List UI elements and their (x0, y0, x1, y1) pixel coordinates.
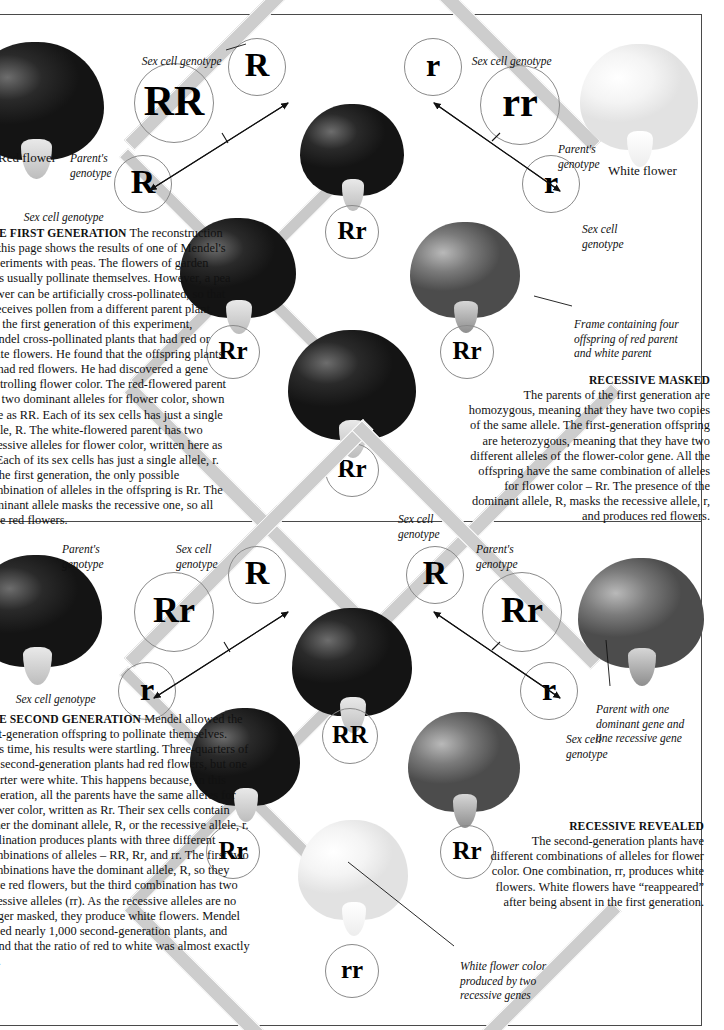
gen1-offspring-flower-top (300, 104, 404, 196)
label-text: Parent with one dominant gene and one re… (596, 703, 684, 744)
label-text: White flower (608, 163, 677, 178)
label-text: Sex cell genotype (582, 223, 624, 249)
gen1-left-text-block: THE FIRST GENERATION The reconstruction … (0, 226, 232, 529)
gen2-offspring-flower-top (292, 608, 412, 716)
gen1-frame-leader (534, 296, 576, 310)
label-text: Parent's genotype (558, 143, 600, 169)
gen2-right-gamete-top: R (423, 556, 448, 590)
gen1-white-sexcell-top-label: Sex cell genotype (466, 40, 552, 69)
gen1-right-text-block: RECESSIVE MASKED The parents of the firs… (466, 374, 710, 524)
gen1-red-gamete-bottom-circle[interactable]: R (114, 155, 172, 213)
label-text: Sex cell genotype (176, 543, 218, 569)
gen1-frame-label: Frame containing four offspring of red p… (574, 303, 679, 361)
gen1-offspring-flower-right (410, 222, 520, 318)
label-text: Sex cell genotype (398, 513, 440, 539)
gen1-left-body: The reconstruction on this page shows th… (0, 226, 231, 527)
gen2-right-heading: RECESSIVE REVEALED (490, 820, 704, 834)
gen2-left-sexcell-top-label: Sex cell genotype (176, 528, 218, 571)
gen2-white-note-leader (348, 862, 458, 952)
label-text: Sex cell genotype (24, 211, 104, 223)
gen2-left-body: Mendel allowed the first-generation offs… (0, 712, 250, 968)
gen2-left-gamete-top: R (245, 556, 270, 590)
gen2-right-cross-arrow (420, 594, 550, 714)
gen1-red-sexcell-top-label: Sex cell genotype (136, 40, 222, 69)
gen1-offspring-flower-bottom (288, 330, 416, 440)
gen1-white-parent-label: Parent's genotype (558, 128, 600, 171)
label-text: Sex cell genotype (142, 55, 222, 67)
gen2-white-note: White flower color produced by two reces… (460, 945, 546, 1003)
gen1-red-sexcell-bottom-label: Sex cell genotype (18, 196, 104, 225)
gen1-red-parent-label: Parent's genotype (70, 137, 112, 180)
gen2-left-parent-label: Parent's genotype (62, 528, 104, 571)
label-text: Parent's genotype (476, 543, 518, 569)
gen2-right-parent-flower (578, 558, 704, 668)
gen2-left-text-block: THE SECOND GENERATION Mendel allowed the… (0, 712, 250, 969)
red-flower-label: Red flower (0, 150, 56, 166)
label-text: Sex cell genotype (16, 693, 96, 705)
white-flower-label: White flower (608, 163, 677, 179)
label-text: Parent's genotype (70, 152, 112, 178)
label-text: Frame containing four offspring of red p… (574, 318, 679, 359)
gen1-white-sexcell-bottom-label: Sex cell genotype (582, 208, 624, 251)
gen2-parent-note-leader (606, 640, 618, 690)
gen1-left-heading: THE FIRST GENERATION (0, 227, 127, 240)
gen2-parent-note: Parent with one dominant gene and one re… (596, 688, 684, 746)
gen2-offspring-circle-bottom[interactable]: rr (325, 944, 379, 998)
gen1-offspring-genotype-right: Rr (452, 338, 481, 363)
gen2-right-sexcell-top-label: Sex cell genotype (398, 498, 440, 541)
gen1-red-gamete-bottom: R (131, 165, 156, 199)
gen2-right-body: The second-generation plants have differ… (491, 834, 704, 909)
gen2-left-cross-arrow (182, 594, 302, 714)
gen2-left-gamete-bottom: r (140, 673, 154, 705)
gen1-red-cross-arrow (180, 85, 300, 205)
gen1-offspring-circle-right[interactable]: Rr (440, 325, 494, 379)
label-text: Sex cell genotype (472, 55, 552, 67)
gen2-left-heading: THE SECOND GENERATION (0, 713, 141, 726)
gen2-right-parent-label: Parent's genotype (476, 528, 518, 571)
gen1-right-body: The parents of the first generation are … (469, 388, 710, 523)
gen2-offspring-genotype-top: RR (332, 722, 368, 747)
label-text: Parent's genotype (62, 543, 104, 569)
gen2-offspring-flower-right (408, 712, 520, 812)
label-text: Red flower (0, 150, 56, 165)
gen2-offspring-genotype-bottom: rr (341, 957, 363, 982)
gen2-offspring-circle-top[interactable]: RR (322, 708, 378, 764)
gen1-right-heading: RECESSIVE MASKED (466, 374, 710, 388)
gen2-offspring-genotype-right: Rr (452, 838, 481, 863)
gen1-white-gamete-top: r (426, 49, 440, 81)
gen2-left-sexcell-bottom-label: Sex cell genotype (10, 678, 96, 707)
gen1-red-sexcell-top-leader (226, 44, 252, 64)
label-text: White flower color produced by two reces… (460, 960, 546, 1001)
gen2-right-text-block: RECESSIVE REVEALED The second-generation… (490, 820, 704, 910)
gen1-offspring-genotype-top: Rr (337, 218, 366, 243)
gen1-white-cross-arrow (420, 85, 550, 205)
gen1-offspring-circle-top[interactable]: Rr (325, 205, 379, 259)
